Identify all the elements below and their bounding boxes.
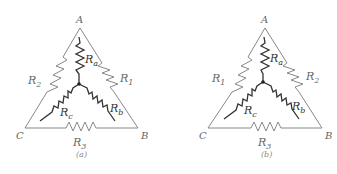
wire-a-bottom [25,122,138,131]
node-label-A: A [260,14,268,25]
node-label-B: B [140,130,148,141]
wire-b-bottom [208,122,322,131]
label-r1-a: R1 [119,72,133,87]
resistor-ra-a [76,37,84,84]
node-label-A: A [75,14,83,25]
node-label-B: B [324,130,332,141]
label-r2-b: R2 [305,70,319,85]
node-label-C: C [16,130,24,141]
caption-b: (b) [261,150,272,159]
label-rc-a: Rc [59,106,73,121]
label-r2-a: R2 [27,74,41,89]
label-ra-a: Ra [84,53,98,68]
node-label-C: C [199,130,207,141]
label-rb-a: Rb [109,102,123,117]
caption-a: (a) [76,150,87,159]
star-center-node-b [261,80,265,84]
label-r3-b: R3 [257,136,271,151]
label-rc-b: Rc [243,104,257,119]
diagram-b: A C B R1 R2 R3 Ra Rb Rc (b) [199,14,332,159]
label-r3-a: R3 [72,136,86,151]
resistor-ra-b [261,37,269,82]
delta-star-diagrams: A C B R2 R1 R3 Ra Rb Rc (a) A C B R1 R2 … [0,0,337,174]
label-rb-b: Rb [291,100,305,115]
diagram-a: A C B R2 R1 R3 Ra Rb Rc (a) [16,14,148,159]
star-center-node-a [77,82,81,86]
label-r1-b: R1 [211,72,225,87]
